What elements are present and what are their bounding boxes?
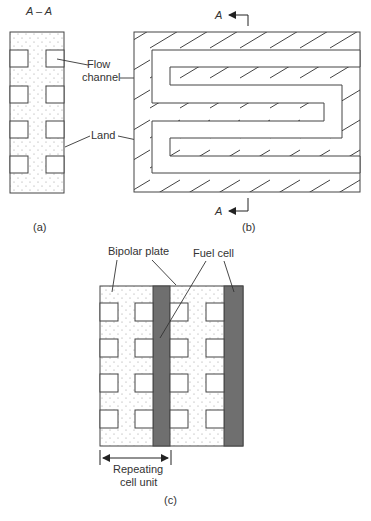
fuel-cell-strip [153,286,170,446]
panel-c: Bipolar plate Fuel cell Repeating cell u… [100,245,243,506]
fuel-cell-label: Fuel cell [193,247,234,259]
caption-a: (a) [33,221,46,233]
svg-text:A: A [214,9,222,21]
bipolar-plate-label: Bipolar plate [108,245,169,257]
land-callout: Land [91,129,115,141]
section-label: A – A [25,5,52,17]
section-marker-top: A [214,9,248,26]
caption-c: (c) [164,494,177,506]
figure: A – A Flow channel Land (a) A A (b) [0,0,371,521]
section-marker-bottom: A [214,198,248,217]
figure-svg: A – A Flow channel Land (a) A A (b) [0,0,371,521]
land-leader-a [65,136,90,147]
caption-b: (b) [242,221,255,233]
repeating-unit-line2: cell unit [120,476,157,488]
repeating-unit-line1: Repeating [113,463,163,475]
panel-b: A A (b) [134,9,360,233]
fuel-cell-strip [224,286,243,446]
flow-callout-line1: Flow [87,58,110,70]
svg-text:A: A [214,205,222,217]
flow-callout-line2: channel [82,71,121,83]
